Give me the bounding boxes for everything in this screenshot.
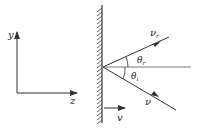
wall-hatch-mark <box>97 44 102 48</box>
mirror-velocity-label: v <box>117 112 123 123</box>
wall-hatch-mark <box>97 84 102 88</box>
wall-hatch-mark <box>97 32 102 36</box>
wall-hatch-mark <box>97 52 102 56</box>
reflection-diagram: y z νr ν θr θi v <box>0 0 199 133</box>
wall-hatch-mark <box>97 36 102 40</box>
wall-hatch-mark <box>97 24 102 28</box>
z-axis-label: z <box>69 95 76 106</box>
incident-velocity-label: ν <box>145 96 151 107</box>
coordinate-axes: y z <box>7 29 77 106</box>
incident-angle-arc <box>123 67 125 79</box>
wall-hatch-mark <box>97 20 102 24</box>
reflected-velocity-label: νr <box>150 27 160 39</box>
wall-hatch-mark <box>97 40 102 44</box>
wall-hatch-mark <box>97 80 102 84</box>
wall-hatch-mark <box>97 100 102 104</box>
wall-hatch-mark <box>97 88 102 92</box>
wall-hatch-mark <box>97 16 102 20</box>
wall-hatch-mark <box>97 120 102 124</box>
y-axis-label: y <box>7 29 14 40</box>
wall-hatch-mark <box>97 68 102 72</box>
wall-hatch-mark <box>97 8 102 12</box>
wall-hatch-mark <box>97 64 102 68</box>
wall-hatch-mark <box>97 112 102 116</box>
reflected-arrow-icon <box>153 41 161 47</box>
wall-hatch-mark <box>97 72 102 76</box>
wall-hatch-mark <box>97 48 102 52</box>
wall-hatch-mark <box>97 76 102 80</box>
wall-hatch-mark <box>97 28 102 32</box>
wall-hatch-mark <box>97 12 102 16</box>
mirror-wall <box>97 5 102 124</box>
wall-hatch-mark <box>97 108 102 112</box>
incident-ray: ν <box>103 67 176 110</box>
reflected-ray: νr <box>103 27 169 67</box>
incident-angle-label: θi <box>131 71 138 82</box>
wall-hatch-mark <box>97 96 102 100</box>
wall-hatch-mark <box>97 60 102 64</box>
reflected-angle-arc <box>126 57 128 67</box>
reflected-angle-label: θr <box>137 55 146 66</box>
wall-hatch-mark <box>97 56 102 60</box>
wall-hatch-mark <box>97 116 102 120</box>
wall-hatch-mark <box>97 92 102 96</box>
mirror-velocity: v <box>104 108 125 123</box>
wall-hatch-mark <box>97 104 102 108</box>
